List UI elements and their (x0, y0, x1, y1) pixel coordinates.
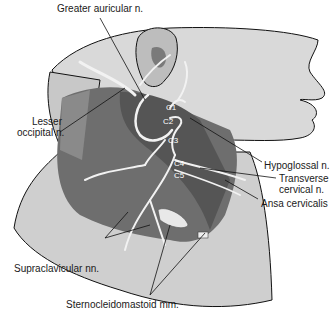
root-label-c5: C5 (174, 171, 185, 180)
label-greater-auricular: Greater auricular n. (57, 3, 143, 14)
label-transverse-cervical-2: cervical n. (279, 184, 324, 195)
root-label-c1: C1 (166, 103, 177, 112)
root-label-c2: C2 (163, 117, 174, 126)
label-ansa-cervicalis: Ansa cervicalis (261, 198, 328, 209)
root-label-c3: C3 (168, 136, 179, 145)
label-supraclavicular: Supraclavicular nn. (14, 263, 99, 274)
label-lesser-occipital-1: Lesser (32, 116, 62, 127)
label-sternocleidomastoid: Sternocleidomastoid mm. (66, 299, 179, 310)
label-hypoglossal: Hypoglossal n. (264, 160, 330, 171)
label-lesser-occipital-2: occipital n. (17, 127, 64, 138)
label-transverse-cervical-1: Transverse (279, 173, 329, 184)
root-label-c4: C4 (174, 159, 185, 168)
